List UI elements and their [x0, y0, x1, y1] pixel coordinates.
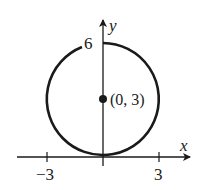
y-axis-label: y: [107, 16, 117, 35]
circle-diagram: 6 y x (0, 3) −3 3: [0, 0, 204, 190]
x-axis-label: x: [179, 136, 188, 155]
center-point-label: (0, 3): [110, 91, 145, 109]
x-tick-label-neg3: −3: [36, 165, 54, 184]
x-tick-label-3: 3: [154, 165, 163, 184]
y-tick-label-6: 6: [84, 34, 93, 53]
center-point: [99, 95, 107, 103]
